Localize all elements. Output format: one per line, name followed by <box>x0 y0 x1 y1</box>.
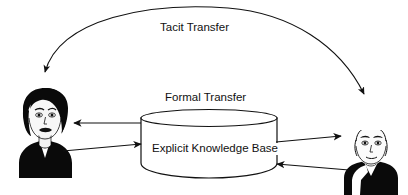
formal-transfer-label: Formal Transfer <box>163 92 248 104</box>
tacit-transfer-arc <box>45 7 364 94</box>
person-left-portrait <box>19 88 72 178</box>
explicit-knowledge-base-label: Explicit Knowledge Base <box>150 143 280 155</box>
person-right-to-kb-arrow <box>277 164 349 170</box>
knowledge-transfer-diagram: Tacit Transfer Formal Transfer Explicit … <box>0 0 408 195</box>
kb-to-person-right-arrow <box>276 136 341 142</box>
person-left-to-kb-arrow <box>63 144 141 151</box>
tacit-transfer-label: Tacit Transfer <box>158 22 231 34</box>
person-right-portrait <box>344 127 398 195</box>
